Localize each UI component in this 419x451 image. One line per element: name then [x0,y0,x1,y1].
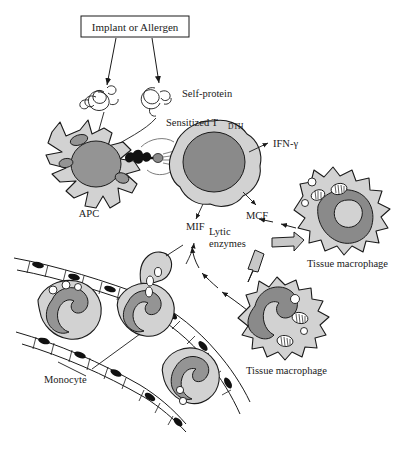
sensitized-t-label: Sensitized T [166,117,219,128]
mif-label: MIF [186,221,205,232]
mcf-label: MCF [246,210,268,221]
lytic-enzymes-label-line2: enzymes [209,238,246,249]
dth-diagram: Implant or Allergen APC [0,0,419,451]
apc-label: APC [79,208,99,219]
lytic-enzymes-label-line1: Lytic [209,226,231,237]
stimulus-box: Implant or Allergen [81,16,189,37]
tissue-macrophage-bottom-label: Tissue macrophage [246,365,327,376]
stimulus-box-label: Implant or Allergen [92,21,179,33]
monocyte-label: Monocyte [44,374,87,385]
diagram-canvas: Implant or Allergen APC [0,0,419,451]
sensitized-t-subscript: DTH [228,122,244,131]
tissue-macrophage-right-label: Tissue macrophage [307,258,388,269]
self-protein-label: Self-protein [182,88,233,99]
ifn-gamma-label: IFN-γ [273,138,298,149]
